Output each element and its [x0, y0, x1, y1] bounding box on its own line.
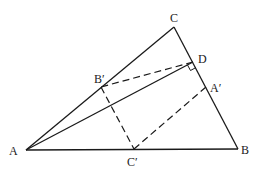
side-AB	[26, 149, 238, 150]
triangle-diagram: A B C D B′ A′ C′	[0, 0, 258, 178]
side-BC	[174, 27, 238, 149]
label-D: D	[198, 52, 207, 66]
label-B-prime: B′	[94, 72, 105, 86]
label-A-prime: A′	[210, 81, 222, 95]
side-CA	[26, 27, 174, 150]
altitude-AD	[26, 62, 193, 150]
label-A: A	[9, 144, 18, 158]
dashed-Cprime-Aprime	[134, 87, 206, 149]
label-C-prime: C′	[127, 155, 138, 169]
label-C: C	[170, 11, 178, 25]
dashed-D-Bprime	[101, 62, 193, 87]
label-B: B	[241, 143, 249, 157]
